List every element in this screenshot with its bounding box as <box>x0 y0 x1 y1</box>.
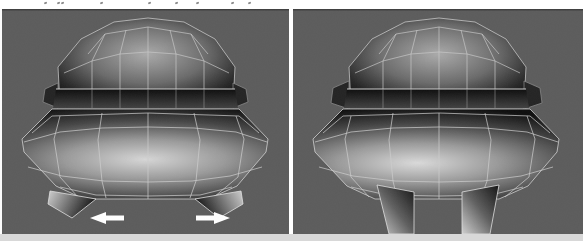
film-grain <box>2 9 289 234</box>
head-mesh-after <box>293 9 583 234</box>
caption-descender-mark <box>196 2 199 4</box>
caption-descender-mark <box>100 2 103 4</box>
caption-descender-mark <box>148 2 151 4</box>
head-mesh-before <box>2 9 289 234</box>
caption-descender-mark <box>44 2 47 4</box>
caption-descender-mark <box>175 2 178 4</box>
figure-two-panel <box>0 9 583 234</box>
caption-descender-mark <box>61 2 64 4</box>
caption-descender-mark <box>57 2 60 4</box>
cropped-caption-fragments <box>0 0 583 9</box>
viewport-after <box>293 9 583 234</box>
film-grain <box>293 9 583 234</box>
caption-descender-mark <box>248 2 251 4</box>
scanned-page <box>0 0 583 241</box>
viewport-before <box>2 9 289 234</box>
page-bottom-strip <box>0 234 583 241</box>
caption-descender-mark <box>231 2 234 4</box>
